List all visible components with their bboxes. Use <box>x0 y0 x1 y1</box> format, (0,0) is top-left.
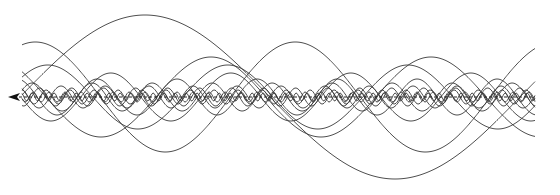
wave-group <box>22 15 535 179</box>
arrow-left-icon <box>8 93 20 101</box>
wave-diagram <box>0 0 560 195</box>
wave-diagram-svg <box>0 0 560 195</box>
